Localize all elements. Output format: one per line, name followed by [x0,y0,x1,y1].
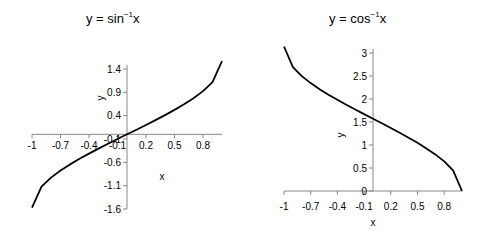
x-tick-label: 0.8 [437,201,451,212]
x-tick-label: 0.2 [384,201,398,212]
arccos-plot: -1-0.7-0.4-0.10.20.50.832.521.510.50xy [0,0,483,236]
y-tick-label: 1.5 [353,117,367,128]
y-axis-label: y [335,133,346,138]
y-tick-label: 1 [361,140,367,151]
x-tick-label: -0.7 [302,201,320,212]
x-tick-label: -1 [280,201,289,212]
x-tick-label: -0.1 [355,201,373,212]
x-axis-label: x [371,217,376,228]
x-tick-label: -0.4 [329,201,347,212]
y-tick-label: 3 [361,48,367,59]
y-tick-label: 2 [361,94,367,105]
x-tick-label: 0.5 [411,201,425,212]
x-axis: -1-0.7-0.4-0.10.20.50.8 [280,191,462,212]
y-tick-label: 2.5 [353,71,367,82]
y-tick-label: 0 [361,186,367,197]
y-tick-label: 0.5 [353,163,367,174]
arccos-chart: y = cos−1x -1-0.7-0.4-0.10.20.50.832.521… [0,0,483,236]
y-axis: 32.521.510.50 [353,48,373,197]
